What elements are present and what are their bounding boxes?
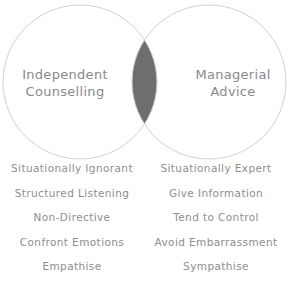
right-trait: Sympathise: [144, 260, 288, 272]
left-trait: Non-Directive: [0, 211, 144, 223]
left-trait: Confront Emotions: [0, 236, 144, 248]
left-trait: Situationally Ignorant: [0, 162, 144, 174]
comparison-row: Situationally Ignorant Situationally Exp…: [0, 162, 288, 187]
comparison-row: Non-Directive Tend to Control: [0, 211, 288, 236]
right-trait: Situationally Expert: [144, 162, 288, 174]
label-managerial-advice: Managerial Advice: [178, 66, 288, 100]
right-trait: Tend to Control: [144, 211, 288, 223]
label-line: Advice: [178, 83, 288, 100]
comparison-row: Structured Listening Give Information: [0, 187, 288, 212]
left-trait: Structured Listening: [0, 187, 144, 199]
comparison-table: Situationally Ignorant Situationally Exp…: [0, 162, 288, 285]
right-trait: Give Information: [144, 187, 288, 199]
comparison-row: Confront Emotions Avoid Embarrassment: [0, 236, 288, 261]
cropped-row: [0, 284, 288, 289]
label-independent-counselling: Independent Counselling: [10, 66, 120, 100]
right-trait: Avoid Embarrassment: [144, 236, 288, 248]
label-line: Independent: [10, 66, 120, 83]
label-line: Counselling: [10, 83, 120, 100]
left-trait: Empathise: [0, 260, 144, 272]
comparison-row: Empathise Sympathise: [0, 260, 288, 285]
label-line: Managerial: [178, 66, 288, 83]
